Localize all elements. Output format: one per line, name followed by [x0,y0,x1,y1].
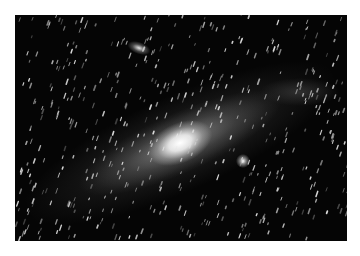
star-field [15,15,347,241]
galaxy-photo [15,15,347,241]
